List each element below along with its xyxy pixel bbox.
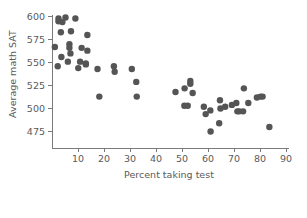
data-point: [75, 65, 81, 71]
data-point: [55, 63, 61, 69]
x-tick-label: 60: [202, 153, 214, 164]
data-point: [217, 97, 223, 103]
data-point: [58, 29, 64, 35]
x-axis-ticks: 102030405060708090: [72, 148, 292, 164]
data-point: [233, 100, 239, 106]
data-point: [66, 45, 72, 51]
y-tick-label: 525: [27, 80, 45, 91]
data-point: [67, 50, 73, 56]
data-point: [78, 45, 84, 51]
x-tick-label: 90: [280, 153, 292, 164]
data-point: [96, 93, 102, 99]
data-point: [245, 100, 251, 106]
data-point: [59, 19, 65, 25]
data-point: [111, 69, 117, 75]
y-tick-label: 600: [27, 11, 45, 22]
data-point: [172, 89, 178, 95]
data-point: [65, 58, 71, 64]
data-point: [111, 63, 117, 69]
data-point: [266, 124, 272, 130]
data-point: [185, 103, 191, 109]
data-point: [133, 79, 139, 85]
x-axis-title: Percent taking test: [124, 169, 214, 180]
data-point: [216, 120, 222, 126]
y-tick-label: 500: [27, 103, 45, 114]
x-tick-label: 20: [98, 153, 110, 164]
scatter-plot-figure: 475500525550575600 102030405060708090 Pe…: [0, 0, 307, 218]
x-tick-label: 70: [228, 153, 240, 164]
data-point: [77, 58, 83, 64]
data-point: [241, 85, 247, 91]
y-tick-label: 575: [27, 34, 45, 45]
y-tick-label: 550: [27, 57, 45, 68]
y-axis-ticks: 475500525550575600: [27, 11, 52, 137]
data-point: [83, 61, 89, 67]
data-point: [181, 85, 187, 91]
x-tick-label: 50: [176, 153, 188, 164]
data-point: [72, 15, 78, 21]
plot-canvas: 475500525550575600 102030405060708090 Pe…: [0, 0, 307, 218]
data-point: [201, 104, 207, 110]
data-point: [58, 54, 64, 60]
x-tick-label: 40: [150, 153, 162, 164]
data-point: [129, 66, 135, 72]
data-point: [52, 44, 58, 50]
data-point: [207, 128, 213, 134]
data-point: [134, 93, 140, 99]
data-point: [84, 32, 90, 38]
y-tick-label: 475: [27, 126, 45, 137]
data-point: [189, 90, 195, 96]
data-point: [207, 107, 213, 113]
data-points-group: [52, 14, 273, 134]
data-point: [187, 81, 193, 87]
x-tick-label: 80: [254, 153, 266, 164]
data-point: [222, 104, 228, 110]
data-point: [84, 47, 90, 53]
y-axis-title: Average math SAT: [7, 30, 18, 118]
data-point: [94, 66, 100, 72]
x-tick-label: 10: [72, 153, 84, 164]
x-tick-label: 30: [124, 153, 136, 164]
data-point: [240, 108, 246, 114]
data-point: [68, 28, 74, 34]
data-point: [259, 93, 265, 99]
